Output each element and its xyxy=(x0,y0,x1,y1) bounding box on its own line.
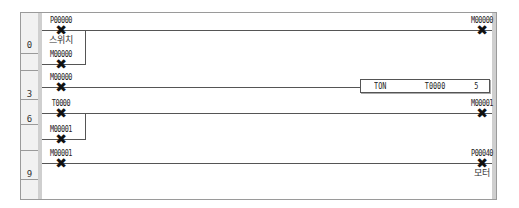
contact-address: M00001 xyxy=(44,149,78,158)
coil-address: P00040 xyxy=(465,149,499,158)
rung-0-wire xyxy=(42,30,492,31)
rung-6-branch-vertical xyxy=(85,113,86,139)
contact-x-icon: ✖ xyxy=(41,25,81,35)
rung-6-wire xyxy=(42,113,492,114)
coil-x-icon: ✖ xyxy=(462,108,502,118)
coil-x-icon: ✖ xyxy=(462,158,502,168)
step-number: 3 xyxy=(21,89,38,99)
coil-comment: 모터 xyxy=(462,168,502,179)
contact-x-icon: ✖ xyxy=(41,82,81,92)
rung-3-wire xyxy=(42,87,360,88)
contact-m00001[interactable]: M00001 ✖ xyxy=(41,149,81,168)
step-divider xyxy=(21,150,38,151)
coil-address: M00000 xyxy=(465,16,499,25)
contact-address: M00001 xyxy=(44,125,78,134)
step-divider xyxy=(21,99,38,100)
contact-p00000[interactable]: P00000 ✖ 스위치 xyxy=(41,16,81,46)
contact-t0000[interactable]: T0000 ✖ xyxy=(41,99,81,118)
timer-instruction: TON xyxy=(374,82,386,91)
step-divider xyxy=(21,53,38,54)
coil-x-icon: ✖ xyxy=(462,25,502,35)
timer-preset: 5 xyxy=(474,82,478,91)
contact-m00001-parallel[interactable]: M00001 ✖ xyxy=(41,125,81,144)
step-number: 0 xyxy=(21,40,38,50)
contact-address: M00000 xyxy=(44,73,78,82)
contact-address: T0000 xyxy=(44,99,78,108)
step-divider xyxy=(21,179,38,180)
contact-address: M00000 xyxy=(44,50,78,59)
step-divider xyxy=(21,124,38,125)
contact-m00000[interactable]: M00000 ✖ xyxy=(41,73,81,92)
timer-ton-block[interactable]: TON T0000 5 xyxy=(360,79,490,93)
timer-operand: T0000 xyxy=(425,82,445,91)
coil-p00040[interactable]: P00040 ✖ 모터 xyxy=(462,149,502,179)
coil-m00001[interactable]: M00001 ✖ xyxy=(462,99,502,118)
contact-x-icon: ✖ xyxy=(41,59,81,69)
contact-x-icon: ✖ xyxy=(41,134,81,144)
rung-9-wire xyxy=(42,163,492,164)
ladder-diagram: 0 3 6 9 P00000 ✖ 스위치 M00000 ✖ M00000 ✖ M… xyxy=(20,12,497,200)
step-number: 9 xyxy=(21,169,38,179)
contact-x-icon: ✖ xyxy=(41,108,81,118)
contact-x-icon: ✖ xyxy=(41,158,81,168)
contact-comment: 스위치 xyxy=(41,35,81,46)
contact-address: P00000 xyxy=(44,16,78,25)
coil-m00000[interactable]: M00000 ✖ xyxy=(462,16,502,35)
step-divider xyxy=(21,70,38,71)
rung-0-branch-vertical xyxy=(85,30,86,64)
contact-m00000-parallel[interactable]: M00000 ✖ xyxy=(41,50,81,69)
coil-address: M00001 xyxy=(465,99,499,108)
step-number: 6 xyxy=(21,114,38,124)
